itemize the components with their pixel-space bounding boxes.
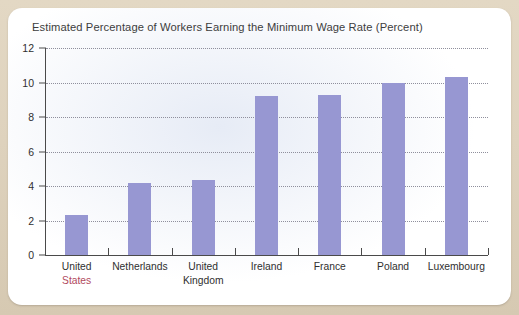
x-axis-tick xyxy=(425,248,426,255)
chart-card: Estimated Percentage of Workers Earning … xyxy=(8,8,511,305)
category-label-line1: United xyxy=(188,261,218,272)
x-axis-tick-origin xyxy=(45,248,46,255)
category-label-line1: France xyxy=(314,261,346,272)
category-label-line1: United xyxy=(62,261,92,272)
category-label-line1: Luxembourg xyxy=(428,261,485,272)
y-axis-tick xyxy=(39,151,46,152)
plot-area: 024681012UnitedStatesNetherlandsUnitedKi… xyxy=(8,8,511,305)
y-axis-label: 10 xyxy=(12,77,34,89)
x-axis-tick xyxy=(361,248,362,255)
x-axis-tick xyxy=(488,248,489,255)
x-axis-tick xyxy=(172,248,173,255)
bar[interactable] xyxy=(65,215,88,255)
x-axis-tick xyxy=(298,248,299,255)
y-axis-tick xyxy=(39,186,46,187)
bar[interactable] xyxy=(382,83,405,256)
category-label-line1: Poland xyxy=(377,261,409,272)
x-axis-tick xyxy=(235,248,236,255)
page-background: Estimated Percentage of Workers Earning … xyxy=(0,0,519,315)
y-axis-tick xyxy=(39,117,46,118)
bar[interactable] xyxy=(128,183,151,255)
y-axis-tick xyxy=(39,48,46,49)
x-axis-category-label: Luxembourg xyxy=(410,260,502,274)
bar[interactable] xyxy=(255,96,278,255)
category-label-line2: States xyxy=(31,274,123,288)
bar[interactable] xyxy=(445,77,468,255)
gridline xyxy=(46,83,488,84)
y-axis-label: 6 xyxy=(12,146,34,158)
category-label-line1: Ireland xyxy=(251,261,282,272)
y-axis-label: 2 xyxy=(12,215,34,227)
y-axis-tick xyxy=(39,82,46,83)
y-axis-label: 4 xyxy=(12,180,34,192)
gridline xyxy=(46,48,488,49)
bar[interactable] xyxy=(318,95,341,255)
category-label-line2: Kingdom xyxy=(157,274,249,288)
y-axis-label: 8 xyxy=(12,111,34,123)
bar[interactable] xyxy=(192,180,215,255)
x-axis-line xyxy=(45,255,488,256)
x-axis-tick xyxy=(108,248,109,255)
y-axis-tick xyxy=(39,220,46,221)
y-axis-label: 12 xyxy=(12,42,34,54)
